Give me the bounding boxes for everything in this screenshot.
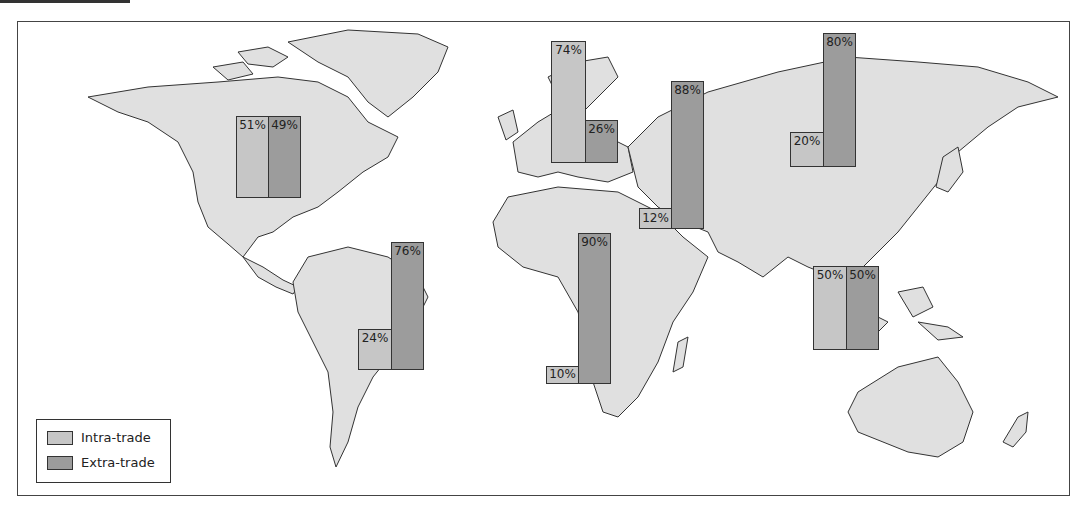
legend: Intra-trade Extra-trade bbox=[36, 419, 171, 483]
intra-swatch-icon bbox=[47, 431, 73, 445]
southeast-asia-intra-bar: 50% bbox=[813, 266, 847, 350]
europe-extra-bar: 26% bbox=[585, 120, 618, 163]
legend-item-intra: Intra-trade bbox=[47, 430, 151, 445]
header-bar bbox=[0, 0, 130, 3]
middle-east-extra-bar: 88% bbox=[671, 81, 704, 229]
world-map-frame: 51% 49% 24% 76% 74% 26% 10% 90% 12% 88% … bbox=[17, 21, 1070, 496]
legend-item-extra: Extra-trade bbox=[47, 455, 155, 470]
middle-east-intra-bar: 12% bbox=[639, 208, 672, 229]
southeast-asia-extra-bar: 50% bbox=[846, 266, 879, 350]
north-america-extra-bar: 49% bbox=[268, 116, 301, 198]
extra-swatch-icon bbox=[47, 456, 73, 470]
africa-intra-bar: 10% bbox=[546, 366, 579, 384]
russia-intra-bar: 20% bbox=[790, 132, 824, 167]
legend-label-extra: Extra-trade bbox=[81, 455, 155, 470]
russia-extra-bar: 80% bbox=[823, 33, 856, 167]
legend-label-intra: Intra-trade bbox=[81, 430, 151, 445]
south-america-intra-bar: 24% bbox=[358, 329, 392, 370]
north-america-intra-bar: 51% bbox=[236, 116, 269, 198]
world-map bbox=[18, 22, 1070, 496]
europe-intra-bar: 74% bbox=[551, 41, 586, 163]
africa-extra-bar: 90% bbox=[578, 233, 611, 384]
south-america-extra-bar: 76% bbox=[391, 242, 424, 370]
